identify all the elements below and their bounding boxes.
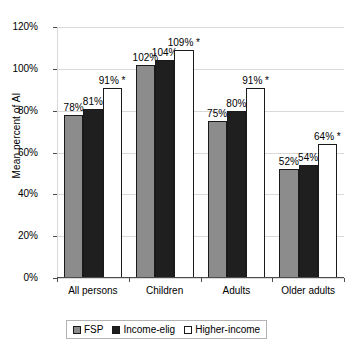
legend-item[interactable]: Income-elig <box>112 324 175 335</box>
x-tick-mark <box>272 278 273 282</box>
legend-item[interactable]: FSP <box>73 324 103 335</box>
x-tick-mark <box>129 278 130 282</box>
bar-value-label: 91% * <box>242 75 269 86</box>
bar[interactable] <box>299 165 318 278</box>
bars-layer: 78%81%91% *102%104%109% *75%80%91% *52%5… <box>57 27 344 278</box>
bar[interactable] <box>155 60 174 278</box>
bar-value-label: 64% * <box>314 131 341 142</box>
bar-group: 52%54%64% * <box>279 27 337 278</box>
legend-item[interactable]: Higher-income <box>184 324 260 335</box>
y-tick-label: 40% <box>0 188 38 199</box>
y-tick-label: 20% <box>0 230 38 241</box>
y-tick-label: 100% <box>0 63 38 74</box>
bar-group: 78%81%91% * <box>64 27 122 278</box>
bar-value-label: 80% <box>226 98 246 109</box>
bar[interactable] <box>64 115 83 278</box>
bar-value-label: 75% <box>207 108 227 119</box>
bar[interactable] <box>103 88 122 278</box>
bar-value-label: 78% <box>64 102 84 113</box>
y-tick-label: 0% <box>0 272 38 283</box>
x-axis-line <box>57 277 344 278</box>
legend-item-label: Higher-income <box>195 324 260 335</box>
plot-area: 78%81%91% *102%104%109% *75%80%91% *52%5… <box>57 27 344 278</box>
x-axis-label: Children <box>146 285 183 296</box>
legend-swatch-icon <box>73 326 81 334</box>
chart-legend: FSPIncome-eligHigher-income <box>66 320 267 339</box>
bar-value-label: 109% * <box>168 37 200 48</box>
bar[interactable] <box>136 65 155 278</box>
bar-group: 102%104%109% * <box>136 27 194 278</box>
bar-value-label: 91% * <box>99 75 126 86</box>
bar-value-label: 52% <box>279 156 299 167</box>
legend-item-label: FSP <box>84 324 103 335</box>
bar[interactable] <box>83 109 102 278</box>
bar-chart: Mean percent of AI 0%20%40%60%80%100%120… <box>0 0 359 358</box>
bar-value-label: 81% <box>83 96 103 107</box>
bar[interactable] <box>174 50 193 278</box>
y-tick-label: 120% <box>0 21 38 32</box>
x-tick-mark <box>344 278 345 282</box>
x-axis-label: All persons <box>68 285 117 296</box>
bar[interactable] <box>227 111 246 278</box>
legend-item-label: Income-elig <box>123 324 175 335</box>
x-axis-label: Older adults <box>281 285 335 296</box>
bar[interactable] <box>318 144 337 278</box>
bar[interactable] <box>208 121 227 278</box>
bar[interactable] <box>246 88 265 278</box>
x-tick-mark <box>57 278 58 282</box>
x-axis-label: Adults <box>222 285 250 296</box>
y-tick-label: 60% <box>0 147 38 158</box>
legend-swatch-icon <box>184 326 192 334</box>
bar-value-label: 54% <box>298 152 318 163</box>
x-tick-mark <box>201 278 202 282</box>
bar-group: 75%80%91% * <box>208 27 266 278</box>
bar[interactable] <box>279 169 298 278</box>
y-tick-label: 80% <box>0 105 38 116</box>
legend-swatch-icon <box>112 326 120 334</box>
